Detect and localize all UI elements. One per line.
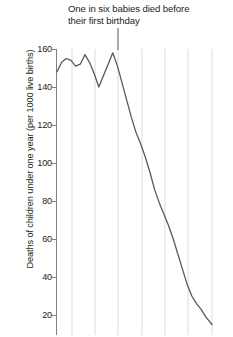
vertical-gridlines: [72, 49, 212, 335]
y-axis-spine: [52, 49, 57, 335]
infant-mortality-line: [57, 53, 212, 325]
chart-figure: One in six babies died before their firs…: [0, 0, 233, 337]
chart-plot-area: [0, 0, 233, 337]
